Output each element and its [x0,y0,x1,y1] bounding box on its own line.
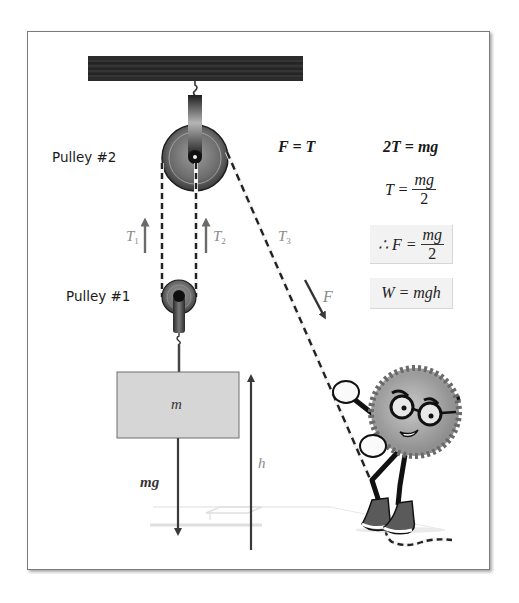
upper-hand [333,381,359,403]
equation-t-numerator: mg [412,172,436,190]
force-arrow [305,280,324,316]
equation-t-lhs: T = [385,181,408,199]
pulley-1-label: Pulley #1 [66,288,130,304]
equation-therefore-fraction: mg 2 [421,227,445,262]
ceiling-beam [88,56,303,81]
equation-therefore-denominator: 2 [428,245,436,262]
weight-label: mg [140,474,159,491]
equation-box-work: W = mgh [370,278,453,309]
equation-t-denominator: 2 [420,190,428,207]
t3-label: T3 [278,228,291,246]
ceiling-hook [194,81,198,95]
force-label: F [323,288,333,306]
lower-hand [360,435,386,457]
pulley-1 [162,280,196,345]
t1-label: T1 [126,228,139,246]
equation-two-t-text: 2T = mg [383,138,438,155]
t2-subscript: 2 [221,236,226,246]
t2-label: T2 [213,228,226,246]
equation-two-t: 2T = mg [383,138,438,156]
pulley-2-label: Pulley #2 [52,149,116,165]
equation-box-therefore: ∴ F = mg 2 [370,225,453,264]
gear-character [333,368,460,534]
equation-t-fraction: mg 2 [412,172,436,207]
equation-therefore-lhs: ∴ F = [378,235,417,254]
equation-t: T = mg 2 [385,172,436,207]
t3-subscript: 3 [286,236,291,246]
mass-label: m [171,396,182,413]
height-label: h [258,455,266,472]
equation-f-equals-t: F = T [278,138,315,156]
equation-therefore-numerator: mg [421,227,445,245]
t1-subscript: 1 [134,236,139,246]
